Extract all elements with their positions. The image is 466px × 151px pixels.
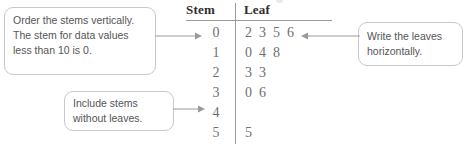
callout-write-line-1: Write the leaves: [367, 29, 454, 44]
header-underline: [186, 20, 332, 21]
stem-and-leaf-figure: Stem Leaf 0 2 3 5 6 1 0 4 8 2 3 3 3 0 6: [0, 0, 466, 151]
leaf-values: 0 6: [245, 83, 266, 103]
table-row: 3 0 6: [186, 83, 336, 103]
plot-header-row: Stem Leaf: [186, 2, 336, 20]
arrow-right-icon: [155, 31, 203, 41]
stem-value: 0: [208, 23, 224, 43]
stem-value: 2: [208, 63, 224, 83]
table-row: 2 3 3: [186, 63, 336, 83]
callout-include-stems: Include stems without leaves.: [64, 91, 174, 131]
callout-write-leaves: Write the leaves horizontally.: [358, 22, 463, 66]
callout-include-line-1: Include stems: [73, 96, 165, 111]
stem-value: 5: [208, 123, 224, 143]
stem-and-leaf-plot: Stem Leaf 0 2 3 5 6 1 0 4 8 2 3 3 3 0 6: [186, 2, 336, 146]
stem-value: 3: [208, 83, 224, 103]
arrow-left-icon: [300, 31, 360, 41]
column-header-stem: Stem: [186, 2, 215, 18]
table-row: 4: [186, 103, 336, 123]
leaf-values: 5: [245, 123, 252, 143]
arrow-right-icon: [173, 104, 206, 114]
callout-order-stems: Order the stems vertically. The stem for…: [4, 7, 156, 75]
table-row: 1 0 4 8: [186, 43, 336, 63]
callout-write-line-2: horizontally.: [367, 44, 454, 59]
table-row: 5 5: [186, 123, 336, 143]
callout-order-line-1: Order the stems vertically.: [13, 13, 147, 28]
stem-value: 1: [208, 43, 224, 63]
callout-include-line-2: without leaves.: [73, 111, 165, 126]
callout-order-line-3: less than 10 is 0.: [13, 43, 147, 58]
stem-value: 4: [208, 103, 224, 123]
leaf-values: 3 3: [245, 63, 266, 83]
leaf-values: 0 4 8: [245, 43, 280, 63]
plot-rows: 0 2 3 5 6 1 0 4 8 2 3 3 3 0 6 4 5: [186, 23, 336, 143]
callout-order-line-2: The stem for data values: [13, 28, 147, 43]
leaf-values: 2 3 5 6: [245, 23, 294, 43]
column-header-leaf: Leaf: [244, 2, 270, 18]
